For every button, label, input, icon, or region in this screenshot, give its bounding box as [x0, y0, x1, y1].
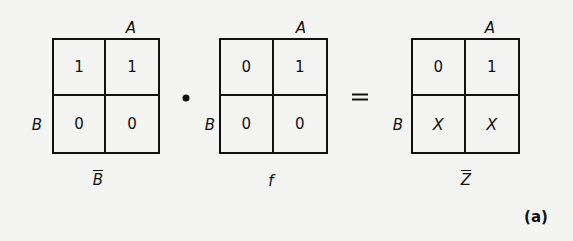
kmap-cell: 1	[106, 40, 158, 96]
kmap-cell: 0	[413, 40, 466, 96]
and-operator-dot	[183, 95, 190, 102]
map2-caption: f	[268, 172, 273, 190]
figure-tag: (a)	[524, 208, 548, 226]
map2-row-label: B	[205, 116, 215, 134]
kmap-cell-dont-care: X	[413, 96, 466, 152]
kmap-b-bar: 1 1 0 0	[52, 38, 160, 154]
kmap-cell-dont-care: X	[466, 96, 519, 152]
kmap-cell: 1	[466, 40, 519, 96]
kmap-cell: 1	[54, 40, 106, 96]
map1-row-label: B	[32, 116, 42, 134]
kmap-cell: 0	[106, 96, 158, 152]
map1-col-label: A	[126, 19, 136, 37]
kmap-cell: 0	[221, 40, 274, 96]
kmap-cell: 0	[54, 96, 106, 152]
kmap-cell: 1	[274, 40, 327, 96]
kmap-cell: 0	[221, 96, 274, 152]
map1-caption: B	[93, 171, 103, 189]
map3-row-label: B	[393, 116, 403, 134]
map3-col-label: A	[485, 19, 495, 37]
kmap-z-bar: 0 1 X X	[411, 38, 520, 154]
equals-operator	[352, 94, 368, 101]
map3-caption: Z	[461, 171, 471, 189]
map2-col-label: A	[296, 19, 306, 37]
kmap-f: 0 1 0 0	[219, 38, 328, 154]
kmap-cell: 0	[274, 96, 327, 152]
